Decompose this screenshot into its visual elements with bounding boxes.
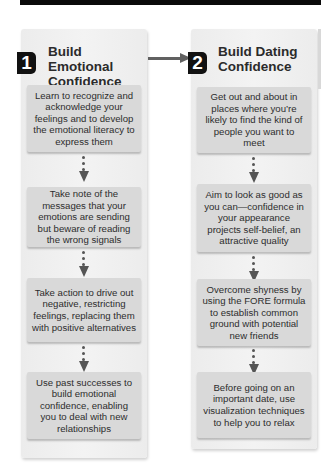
down-arrow-icon bbox=[248, 155, 260, 185]
step-1-card-1: Learn to recognize and acknowledge your … bbox=[27, 85, 141, 152]
step-1-column: 1 Build Emotional Confidence Learn to re… bbox=[21, 29, 147, 458]
step-1-title: Build Emotional Confidence bbox=[48, 44, 148, 89]
right-arrow-line bbox=[148, 57, 184, 60]
down-arrow-icon bbox=[78, 344, 90, 374]
step-1-header: 1 Build Emotional Confidence bbox=[21, 29, 147, 89]
top-black-bar bbox=[20, 0, 321, 5]
step-2-card-1: Get out and about in places where you’re… bbox=[197, 87, 311, 153]
step-2-header: 2 Build Dating Confidence bbox=[191, 29, 317, 89]
step-2-number-badge: 2 bbox=[188, 52, 207, 74]
step-2-card-2: Aim to look as good as you can—confidenc… bbox=[197, 184, 311, 252]
down-arrow-icon bbox=[78, 154, 90, 184]
down-arrow-icon bbox=[78, 249, 90, 279]
step-1-card-4: Use past successes to build emotional co… bbox=[27, 372, 141, 439]
step-1-card-2: Take note of the messages that your emot… bbox=[27, 187, 141, 247]
step-2-title: Build Dating Confidence bbox=[218, 44, 318, 74]
step-1-card-3: Take action to drive out negative, restr… bbox=[27, 278, 141, 342]
step-1-number-badge: 1 bbox=[17, 52, 36, 74]
step-2-card-3: Overcome shyness by using the FORE formu… bbox=[197, 279, 311, 346]
step-2-column: 2 Build Dating Confidence Get out and ab… bbox=[191, 29, 317, 449]
step-2-card-4: Before going on an important date, use v… bbox=[197, 372, 311, 438]
